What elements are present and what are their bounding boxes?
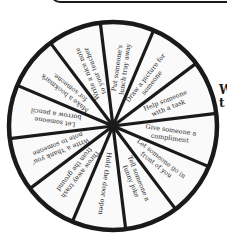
wheel-hub xyxy=(108,121,118,131)
kindness-wheel[interactable]: Put someone'slunch tray awayDraw a pictu… xyxy=(0,0,227,243)
